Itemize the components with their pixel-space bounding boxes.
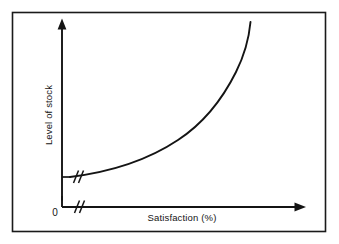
chart-figure: 0 Satisfaction (%) Level of stock xyxy=(0,0,339,244)
figure-border xyxy=(13,13,326,232)
origin-label: 0 xyxy=(52,207,58,218)
y-axis-label: Level of stock xyxy=(43,85,54,145)
chart-canvas: 0 Satisfaction (%) Level of stock xyxy=(0,0,339,244)
x-axis-label: Satisfaction (%) xyxy=(148,212,217,223)
